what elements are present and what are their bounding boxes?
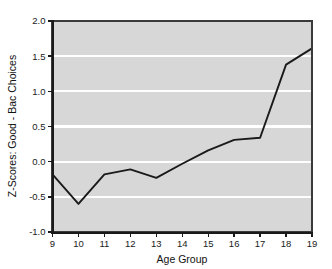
x-tick-label: 16	[229, 238, 240, 249]
line-chart: -1.0-0.50.00.51.01.52.0 9101112131415161…	[0, 0, 332, 269]
x-axis-title: Age Group	[157, 253, 208, 265]
y-axis-title: Z-Scores: Good - Bac Choices	[6, 55, 18, 197]
x-tick-label: 10	[73, 238, 84, 249]
y-axis-tick-labels: -1.0-0.50.00.51.01.52.0	[29, 15, 45, 237]
x-tick-label: 19	[307, 238, 318, 249]
x-axis-tick-labels: 910111213141516171819	[50, 238, 317, 249]
x-tick-label: 9	[50, 238, 55, 249]
y-tick-label: -0.5	[29, 191, 45, 202]
y-tick-label: 0.5	[32, 121, 45, 132]
y-tick-label: 1.5	[32, 51, 45, 62]
x-tick-label: 17	[255, 238, 266, 249]
x-tick-label: 14	[177, 238, 188, 249]
chart-figure: -1.0-0.50.00.51.01.52.0 9101112131415161…	[0, 0, 332, 269]
y-tick-label: 1.0	[32, 86, 45, 97]
x-tick-label: 12	[125, 238, 136, 249]
y-tick-label: 0.0	[32, 156, 45, 167]
x-tick-label: 13	[151, 238, 162, 249]
y-tick-label: -1.0	[29, 226, 45, 237]
y-tick-label: 2.0	[32, 15, 45, 26]
x-tick-label: 15	[203, 238, 214, 249]
x-tick-label: 18	[281, 238, 292, 249]
x-tick-label: 11	[99, 238, 109, 249]
